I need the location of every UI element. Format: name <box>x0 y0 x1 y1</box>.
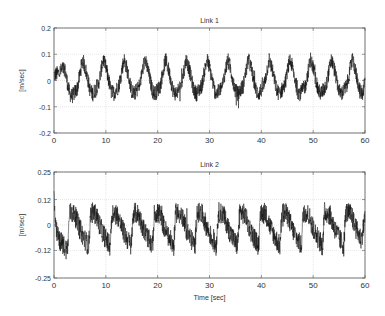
x-tick-label: 20 <box>153 136 162 145</box>
y-tick-label: 0.1 <box>41 51 51 58</box>
x-tick-label: 40 <box>257 281 266 290</box>
x-tick-label: 0 <box>52 281 57 290</box>
chart-title: Link 2 <box>200 161 219 168</box>
link1-plot: 01020304050600.20.10-0.1-0.2Link 1[m/sec… <box>18 17 370 145</box>
y-axis-label: [m/sec] <box>18 214 26 237</box>
link2-plot: 01020304050600.250.120-0.12-0.25Link 2[m… <box>18 161 370 302</box>
x-tick-label: 40 <box>257 136 266 145</box>
x-tick-label: 10 <box>101 136 110 145</box>
y-tick-label: -0.25 <box>35 275 51 282</box>
x-tick-label: 10 <box>101 281 110 290</box>
x-tick-label: 0 <box>52 136 57 145</box>
y-tick-label: 0.25 <box>37 169 51 176</box>
chart-title: Link 1 <box>200 17 219 24</box>
y-axis-label: [m/sec] <box>18 69 26 92</box>
x-tick-label: 20 <box>153 281 162 290</box>
grid <box>54 28 365 133</box>
y-tick-label: 0 <box>47 222 51 229</box>
x-tick-label: 60 <box>361 136 370 145</box>
x-tick-label: 50 <box>309 136 318 145</box>
y-tick-label: -0.2 <box>39 130 51 137</box>
y-tick-label: 0.12 <box>37 197 51 204</box>
x-tick-label: 30 <box>205 136 214 145</box>
y-tick-label: -0.12 <box>35 247 51 254</box>
x-tick-label: 30 <box>205 281 214 290</box>
x-tick-label: 60 <box>361 281 370 290</box>
x-tick-label: 50 <box>309 281 318 290</box>
figure: 01020304050600.20.10-0.1-0.2Link 1[m/sec… <box>0 0 385 316</box>
y-tick-label: 0.2 <box>41 25 51 32</box>
y-tick-label: 0 <box>47 78 51 85</box>
x-axis-label: Time [sec] <box>193 294 225 302</box>
y-tick-label: -0.1 <box>39 104 51 111</box>
